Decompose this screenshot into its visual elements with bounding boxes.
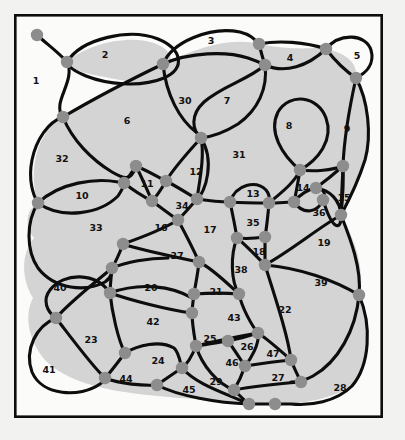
face-label-10: 10 — [75, 190, 89, 201]
face-label-43: 43 — [227, 312, 240, 323]
graph-vertex-v11 — [337, 160, 349, 172]
graph-vertex-v31 — [188, 288, 200, 300]
graph-vertex-v34 — [186, 307, 198, 319]
face-label-21: 21 — [209, 286, 222, 297]
graph-vertex-v43 — [99, 372, 111, 384]
face-label-28: 28 — [333, 382, 347, 393]
face-label-26: 26 — [240, 341, 254, 352]
face-label-34: 34 — [175, 200, 189, 211]
face-label-8: 8 — [286, 120, 293, 131]
face-label-44: 44 — [119, 373, 133, 384]
graph-vertex-v21 — [310, 182, 322, 194]
face-label-19: 19 — [317, 237, 330, 248]
face-label-31: 31 — [232, 149, 245, 160]
graph-vertex-v41 — [239, 360, 251, 372]
face-label-45: 45 — [182, 384, 195, 395]
face-label-30: 30 — [178, 95, 192, 106]
face-label-6: 6 — [124, 115, 131, 126]
face-label-32: 32 — [55, 153, 68, 164]
graph-vertex-v22 — [335, 209, 347, 221]
graph-vertex-v29 — [259, 259, 271, 271]
graph-vertex-v12 — [130, 160, 142, 172]
face-label-13: 13 — [246, 188, 259, 199]
graph-vertex-v13 — [118, 177, 130, 189]
face-label-20: 20 — [144, 282, 158, 293]
face-label-35: 35 — [246, 217, 259, 228]
face-label-42: 42 — [146, 316, 159, 327]
graph-vertex-v25 — [117, 238, 129, 250]
graph-vertex-v37 — [222, 335, 234, 347]
graph-vertex-v26 — [106, 262, 118, 274]
graph-vertex-v38 — [190, 340, 202, 352]
face-label-9: 9 — [344, 123, 351, 134]
face-label-36: 36 — [312, 207, 326, 218]
face-label-41: 41 — [42, 364, 55, 375]
face-label-2: 2 — [102, 49, 109, 60]
graph-vertex-v39 — [119, 347, 131, 359]
graph-vertex-v5 — [253, 38, 265, 50]
graph-vertex-v33 — [50, 312, 62, 324]
face-label-15: 15 — [337, 192, 350, 203]
face-label-3: 3 — [208, 35, 215, 46]
graph-vertex-v17 — [191, 193, 203, 205]
face-label-39: 39 — [314, 277, 327, 288]
graph-vertex-v16 — [32, 197, 44, 209]
face-label-16: 16 — [154, 222, 168, 233]
graph-vertex-v2 — [61, 56, 73, 68]
graph-vertex-v23 — [172, 214, 184, 226]
graph-vertex-v44 — [151, 379, 163, 391]
face-label-22: 22 — [278, 304, 291, 315]
graph-vertex-v3 — [57, 111, 69, 123]
graph-vertex-v9 — [195, 132, 207, 144]
graph-vertex-v48 — [269, 398, 281, 410]
graph-vertex-v32 — [233, 288, 245, 300]
graph-vertex-v20 — [288, 196, 300, 208]
graph-vertex-v49 — [317, 194, 329, 206]
face-label-33: 33 — [89, 222, 102, 233]
face-label-38: 38 — [234, 264, 248, 275]
graph-vertex-v36 — [252, 327, 264, 339]
face-label-18: 18 — [252, 246, 266, 257]
graph-vertex-v7 — [320, 43, 332, 55]
face-label-23: 23 — [84, 334, 97, 345]
graph-vertex-v46 — [295, 376, 307, 388]
graph-vertex-v8 — [350, 72, 362, 84]
figure-root: 1234567891011121314151617181920212223242… — [0, 0, 405, 440]
graph-vertex-v30 — [104, 287, 116, 299]
face-label-40: 40 — [53, 282, 67, 293]
graph-vertex-v24 — [259, 231, 271, 243]
graph-vertex-v1 — [31, 29, 43, 41]
graph-vertex-v4 — [157, 58, 169, 70]
face-label-46: 46 — [225, 357, 239, 368]
face-label-24: 24 — [151, 355, 165, 366]
face-label-1: 1 — [33, 75, 40, 86]
graph-vertex-v19 — [263, 197, 275, 209]
face-label-4: 4 — [287, 52, 294, 63]
graph-vertex-v15 — [146, 195, 158, 207]
graph-vertex-v18 — [224, 196, 236, 208]
face-label-27: 27 — [271, 372, 284, 383]
face-label-12: 12 — [189, 166, 202, 177]
face-label-25: 25 — [203, 333, 216, 344]
graph-vertex-v10 — [294, 164, 306, 176]
graph-vertex-v45 — [228, 384, 240, 396]
graph-vertex-v28 — [231, 232, 243, 244]
graph-vertex-v40 — [285, 354, 297, 366]
face-label-47: 47 — [266, 348, 279, 359]
face-label-7: 7 — [224, 95, 231, 106]
planar-graph-diagram: 1234567891011121314151617181920212223242… — [0, 0, 405, 440]
face-label-29: 29 — [209, 376, 222, 387]
graph-vertex-v6 — [259, 59, 271, 71]
graph-vertex-v42 — [176, 362, 188, 374]
face-label-17: 17 — [203, 224, 216, 235]
face-label-11: 11 — [140, 178, 153, 189]
face-label-5: 5 — [354, 50, 361, 61]
graph-vertex-v14 — [160, 175, 172, 187]
graph-vertex-v47 — [243, 398, 255, 410]
face-label-37: 37 — [170, 250, 183, 261]
face-label-14: 14 — [296, 182, 310, 193]
graph-vertex-v27 — [193, 256, 205, 268]
graph-vertex-v35 — [353, 289, 365, 301]
